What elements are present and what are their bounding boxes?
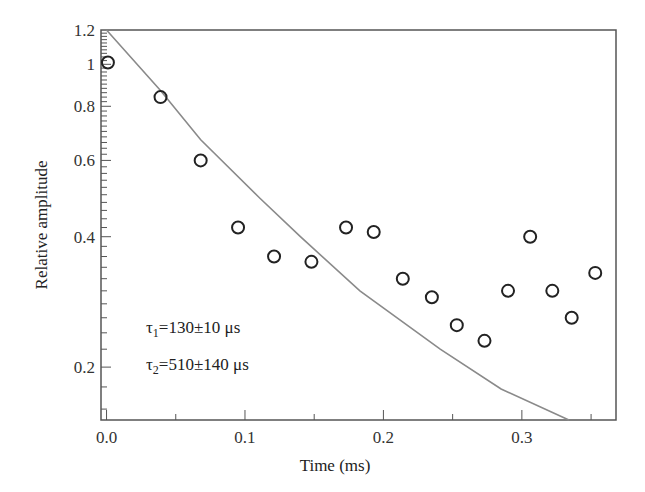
data-point <box>589 267 601 279</box>
data-point <box>478 335 490 347</box>
x-axis-title: Time (ms) <box>300 456 371 475</box>
x-tick-label: 0.2 <box>373 428 394 447</box>
chart: 0.20.40.60.811.2 0.00.10.20.3 Time (ms) … <box>0 0 645 492</box>
data-point <box>368 226 380 238</box>
data-point <box>232 222 244 234</box>
y-tick-label: 0.6 <box>74 151 95 170</box>
y-axis-ticks: 0.20.40.60.811.2 <box>74 21 111 409</box>
data-point <box>340 222 352 234</box>
data-point <box>566 312 578 324</box>
y-tick-label: 0.8 <box>74 97 95 116</box>
data-point <box>426 291 438 303</box>
data-point <box>524 231 536 243</box>
data-point <box>155 91 167 103</box>
tau2-value: =510±140 μs <box>159 355 249 374</box>
y-tick-label: 0.2 <box>74 358 95 377</box>
y-tick-label: 1.2 <box>74 21 95 40</box>
y-tick-label: 0.4 <box>74 228 96 247</box>
data-point <box>195 154 207 166</box>
annotation-tau1: τ1=130±10 μs <box>146 318 240 341</box>
tau2-symbol: τ <box>146 355 153 374</box>
y-axis-title: Relative amplitude <box>32 161 51 290</box>
data-point <box>502 285 514 297</box>
x-tick-label: 0.1 <box>234 428 255 447</box>
data-point <box>451 319 463 331</box>
x-tick-label: 0.3 <box>511 428 532 447</box>
data-point <box>268 251 280 263</box>
data-point <box>305 256 317 268</box>
annotation-tau2: τ2=510±140 μs <box>146 355 249 378</box>
x-axis-ticks: 0.00.10.20.3 <box>96 410 591 447</box>
tau1-symbol: τ <box>146 318 153 337</box>
data-point <box>397 273 409 285</box>
data-point <box>102 56 114 68</box>
x-tick-label: 0.0 <box>96 428 117 447</box>
data-points <box>102 56 601 346</box>
y-tick-label: 1 <box>87 55 96 74</box>
tau1-value: =130±10 μs <box>159 318 240 337</box>
data-point <box>546 285 558 297</box>
